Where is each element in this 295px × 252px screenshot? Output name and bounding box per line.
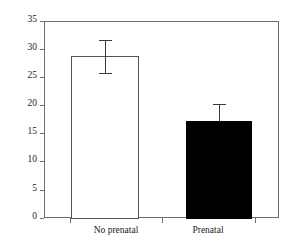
error-bar-stem [219, 104, 220, 121]
y-tick-label-10: 10 [28, 154, 38, 164]
plot-area [44, 21, 279, 218]
y-tick-5: 5 [0, 190, 44, 191]
error-bar-cap-upper [213, 104, 226, 105]
y-tick-mark-0 [40, 218, 44, 219]
error-bar-cap-lower [99, 73, 112, 74]
y-tick-30: 30 [0, 49, 44, 50]
x-tick-middle [162, 218, 163, 223]
y-tick-label-35: 35 [28, 14, 38, 24]
y-tick-label-30: 30 [28, 42, 38, 52]
y-tick-20: 20 [0, 105, 44, 106]
y-tick-label-20: 20 [28, 98, 38, 108]
y-tick-label-0: 0 [32, 211, 37, 221]
y-tick-25: 25 [0, 77, 44, 78]
y-tick-0: 0 [0, 218, 44, 219]
y-tick-10: 10 [0, 161, 44, 162]
bar-no-prenatal [71, 56, 139, 219]
error-bar-cap-upper [99, 40, 112, 41]
error-bar-stem [105, 40, 106, 73]
y-tick-label-5: 5 [32, 183, 37, 193]
y-tick-label-15: 15 [28, 126, 38, 136]
y-tick-35: 35 [0, 21, 44, 22]
y-tick-15: 15 [0, 133, 44, 134]
x-tick-left [70, 218, 71, 223]
bar-chart-figure: Amount of training to trigram mean (x 10… [0, 0, 295, 252]
x-axis-label-no-prenatal: No prenatal [94, 225, 139, 235]
x-tick-right [255, 218, 256, 223]
y-tick-label-25: 25 [28, 70, 38, 80]
x-axis-label-prenatal: Prenatal [192, 225, 223, 235]
bar-prenatal [186, 121, 252, 219]
